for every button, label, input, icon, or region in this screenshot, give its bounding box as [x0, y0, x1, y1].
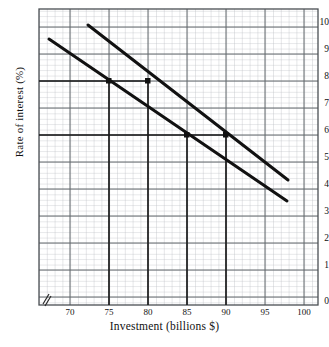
point-i-prime-85-6 — [184, 132, 190, 138]
point-i-double-prime-80-8 — [145, 78, 151, 84]
point-i-prime-75-8 — [106, 78, 112, 84]
figure-container: Rate of interest (%) Investment (billion… — [0, 0, 329, 347]
point-i-double-prime-90-6 — [223, 132, 229, 138]
minor-gridlines — [39, 9, 318, 305]
chart-canvas — [0, 0, 329, 347]
